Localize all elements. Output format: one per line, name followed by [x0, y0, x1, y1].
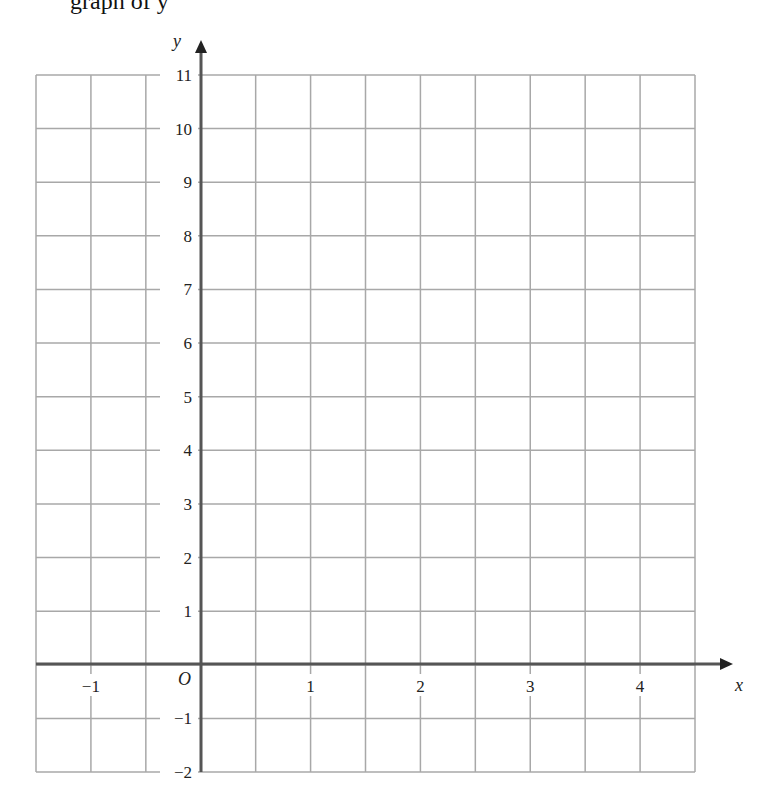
y-tick-label: 10: [175, 120, 192, 139]
x-axis-label: x: [734, 675, 743, 695]
x-tick-label: 3: [526, 677, 535, 696]
y-tick-label: 4: [184, 441, 193, 460]
tick-label-background: [160, 547, 198, 569]
coordinate-grid: x y O −11234 1110987654321−1−2: [0, 0, 774, 811]
tick-label-background: [160, 332, 198, 354]
tick-label-background: [160, 493, 198, 515]
x-tick-label: 4: [636, 677, 645, 696]
x-tick-label: 2: [416, 677, 425, 696]
y-tick-label: 8: [184, 227, 193, 246]
tick-label-background: [160, 386, 198, 408]
tick-label-background: [160, 439, 198, 461]
origin-label: O: [178, 669, 191, 689]
tick-label-background: [160, 225, 198, 247]
axis-labels: x y O: [171, 31, 743, 695]
y-tick-label: −1: [174, 709, 192, 728]
y-tick-label: 5: [184, 388, 193, 407]
y-tick-label: 1: [184, 602, 193, 621]
tick-label-background: [160, 278, 198, 300]
x-tick-label: −1: [82, 677, 100, 696]
y-tick-label: 9: [184, 173, 193, 192]
y-axis-arrow-icon: [195, 40, 207, 53]
y-axis-label: y: [171, 31, 181, 51]
y-tick-label: 2: [184, 549, 193, 568]
axes: [36, 40, 733, 772]
y-tick-label: 11: [176, 66, 192, 85]
x-axis-arrow-icon: [720, 658, 733, 670]
x-tick-label: 1: [306, 677, 315, 696]
tick-label-background: [160, 171, 198, 193]
y-tick-label: 3: [184, 495, 193, 514]
y-tick-label: 6: [184, 334, 193, 353]
tick-label-background: [160, 600, 198, 622]
y-tick-label: −2: [174, 763, 192, 782]
y-tick-label: 7: [184, 280, 193, 299]
grid-lines: [36, 75, 695, 772]
